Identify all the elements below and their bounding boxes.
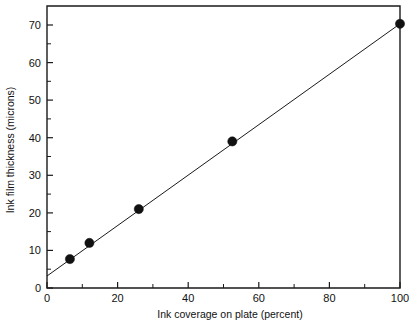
x-tick-label-40: 40 — [182, 292, 194, 304]
y-tick-label-10: 10 — [29, 244, 41, 256]
y-axis-title: Ink film thickness (microns) — [4, 87, 16, 214]
y-tick-label-0: 0 — [35, 282, 41, 294]
x-tick-label-0: 0 — [44, 292, 50, 304]
x-tick-label-80: 80 — [323, 292, 335, 304]
y-tick-label-30: 30 — [29, 169, 41, 181]
x-axis-tick-labels: 0 20 40 60 80 100 — [44, 292, 409, 304]
axis-frame-path — [47, 6, 400, 288]
plot-frame — [47, 6, 400, 288]
data-point-4 — [228, 137, 237, 146]
y-tick-label-60: 60 — [29, 57, 41, 69]
y-tick-label-50: 50 — [29, 94, 41, 106]
y-tick-label-40: 40 — [29, 132, 41, 144]
y-axis-tick-labels: 0 10 20 30 40 50 60 70 — [29, 19, 41, 294]
x-axis-title: Ink coverage on plate (percent) — [157, 308, 302, 320]
chart-figure: 0 10 20 30 40 50 60 70 0 20 40 60 80 100… — [0, 0, 417, 323]
data-point-1 — [65, 255, 74, 264]
data-point-3 — [134, 205, 143, 214]
x-tick-label-60: 60 — [253, 292, 265, 304]
trend-line — [47, 24, 400, 276]
scatter-plot-svg: 0 10 20 30 40 50 60 70 0 20 40 60 80 100… — [0, 0, 417, 323]
x-tick-label-100: 100 — [391, 292, 409, 304]
data-point-2 — [85, 238, 94, 247]
x-tick-label-20: 20 — [111, 292, 123, 304]
y-tick-label-20: 20 — [29, 207, 41, 219]
y-tick-label-70: 70 — [29, 19, 41, 31]
data-point-5 — [395, 19, 404, 28]
